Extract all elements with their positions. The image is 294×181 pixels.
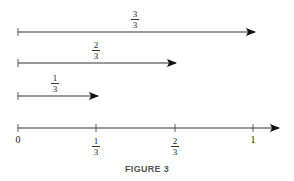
label-two-thirds: 2 3 — [90, 41, 102, 60]
number-line — [18, 124, 279, 132]
arrow-one-third — [18, 92, 98, 100]
denominator: 3 — [94, 51, 99, 61]
label-three-thirds: 3 3 — [129, 10, 141, 29]
numerator: 3 — [133, 9, 138, 19]
tick-label-two-thirds: 2 3 — [169, 137, 181, 156]
label-one-third: 1 3 — [49, 74, 61, 93]
numerator: 1 — [53, 73, 58, 83]
denominator: 3 — [173, 147, 178, 157]
denominator: 3 — [133, 20, 138, 30]
diagram-canvas — [0, 0, 294, 181]
numerator: 1 — [94, 136, 99, 146]
denominator: 3 — [53, 84, 58, 94]
tick-label-0: 0 — [12, 134, 24, 145]
numerator: 2 — [94, 40, 99, 50]
tick-label-1: 1 — [247, 134, 259, 145]
figure-caption: FIGURE 3 — [0, 164, 294, 174]
numerator: 2 — [173, 136, 178, 146]
denominator: 3 — [94, 147, 99, 157]
tick-label-one-third: 1 3 — [90, 137, 102, 156]
